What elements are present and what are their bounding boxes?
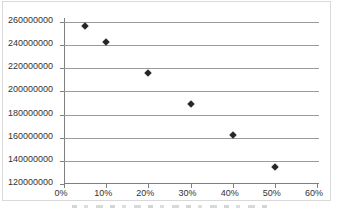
x-tick-label: 50% <box>256 188 288 199</box>
gridline <box>64 115 319 116</box>
y-tick-label: 180000000 <box>3 108 53 119</box>
gridline <box>64 68 319 69</box>
y-axis-tick <box>60 138 64 139</box>
chart-area <box>2 1 331 201</box>
x-tick-label: 60% <box>298 188 330 199</box>
x-tick-label: 10% <box>87 188 119 199</box>
cut-off-caption <box>72 205 268 208</box>
plot-area <box>64 22 319 184</box>
y-tick-label: 240000000 <box>3 38 53 49</box>
x-tick-label: 0% <box>45 188 77 199</box>
y-tick-label: 200000000 <box>3 84 53 95</box>
gridline <box>64 45 319 46</box>
chart-figure: 2600000002400000002200000002000000001800… <box>0 0 337 211</box>
y-axis-line <box>64 18 65 184</box>
x-tick-label: 40% <box>214 188 246 199</box>
gridline <box>64 91 319 92</box>
y-axis-tick <box>60 45 64 46</box>
gridline <box>64 22 319 23</box>
y-tick-label: 260000000 <box>3 15 53 26</box>
y-tick-label: 140000000 <box>3 154 53 165</box>
gridline <box>64 138 319 139</box>
y-axis-tick <box>60 22 64 23</box>
data-point-marker <box>82 23 89 30</box>
data-point-marker <box>145 69 152 76</box>
x-tick-label: 20% <box>129 188 161 199</box>
y-tick-label: 220000000 <box>3 61 53 72</box>
x-tick-label: 30% <box>172 188 204 199</box>
data-point-marker <box>271 163 278 170</box>
data-point-marker <box>187 101 194 108</box>
y-axis-tick <box>60 161 64 162</box>
y-axis-tick <box>60 68 64 69</box>
gridline <box>64 161 319 162</box>
y-tick-label: 120000000 <box>3 177 53 188</box>
y-axis-tick <box>60 91 64 92</box>
y-tick-label: 160000000 <box>3 131 53 142</box>
y-axis-tick <box>60 115 64 116</box>
